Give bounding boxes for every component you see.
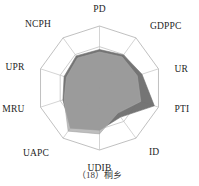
axis-label-id: ID bbox=[149, 147, 159, 157]
axis-label-pd: PD bbox=[93, 4, 106, 14]
figure-caption: （18）桐乡 bbox=[0, 168, 199, 181]
axis-label-pti: PTI bbox=[174, 104, 189, 114]
axis-label-gdppc: GDPPC bbox=[150, 21, 182, 31]
axis-label-ur: UR bbox=[174, 64, 188, 74]
axis-label-mru: MRU bbox=[2, 104, 24, 114]
axis-label-upr: UPR bbox=[5, 62, 24, 72]
series-polygons bbox=[63, 50, 154, 134]
radar-chart-figure: PD GDPPC UR PTI ID UDIB UAPC MRU UPR NCP… bbox=[0, 0, 199, 186]
axis-label-uapc: UAPC bbox=[23, 148, 49, 158]
axis-label-ncph: NCPH bbox=[25, 19, 51, 29]
